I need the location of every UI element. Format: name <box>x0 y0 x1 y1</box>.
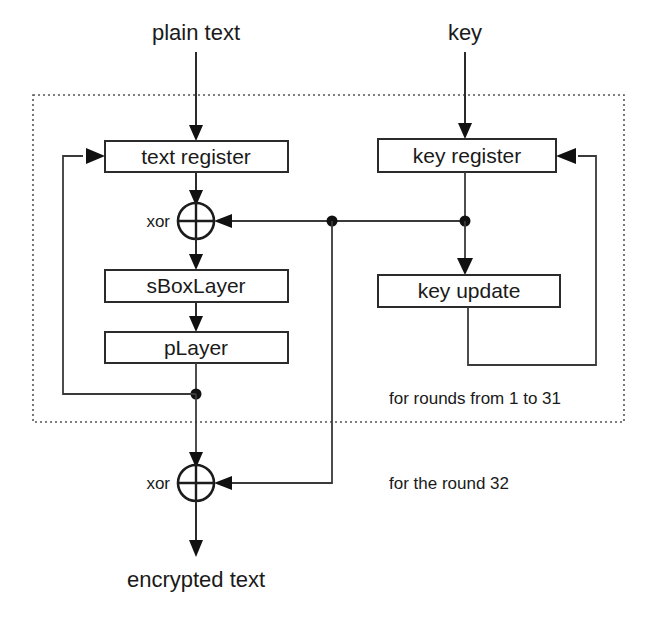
key-label: key <box>448 20 482 45</box>
key-update-label: key update <box>418 279 521 302</box>
present-cipher-diagram: plain text key text register key registe… <box>0 0 657 625</box>
keyupdate-arrow-icon <box>457 258 473 275</box>
round-xor-label: xor <box>146 212 170 231</box>
player-arrow-icon <box>189 316 203 332</box>
encrypted-text-label: encrypted text <box>127 567 265 592</box>
plain-text-label: plain text <box>152 20 240 45</box>
cipher-diagram-canvas: plain text key text register key registe… <box>0 0 657 625</box>
key-register-label: key register <box>413 144 522 167</box>
final-xor-label: xor <box>146 474 170 493</box>
text-feedback-arrow-icon <box>86 148 105 164</box>
sboxlayer-label: sBoxLayer <box>146 274 245 297</box>
key-feedback-wire <box>468 156 596 365</box>
plaintext-arrow-icon <box>189 125 203 141</box>
rounds-loop-note: for rounds from 1 to 31 <box>389 389 561 408</box>
sbox-arrow-icon <box>189 254 203 270</box>
roundkey-arrow-icon <box>214 214 232 228</box>
ciphertext-arrow-icon <box>189 540 203 557</box>
key-arrow-icon <box>458 123 472 139</box>
player-label: pLayer <box>164 336 228 359</box>
final-roundkey-arrow-icon <box>214 476 232 490</box>
text-register-label: text register <box>141 145 251 168</box>
key-feedback-arrow-icon <box>556 148 576 164</box>
final-round-note: for the round 32 <box>389 474 509 493</box>
